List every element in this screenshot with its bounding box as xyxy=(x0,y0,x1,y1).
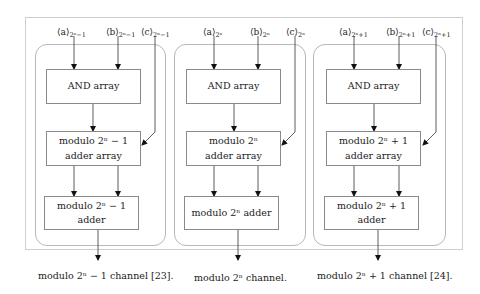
adder-array-block: modulo 2ⁿ + 1adder array xyxy=(326,131,421,166)
input-b-label: ⟨b⟩2ⁿ+1 xyxy=(386,27,415,39)
input-a-label: ⟨a⟩2ⁿ−1 xyxy=(57,27,86,39)
adder-array-subtitle: adder array xyxy=(205,149,262,163)
caption-minus-channel: modulo 2ⁿ − 1 channel [23]. xyxy=(38,270,173,281)
input-c-label: ⟨c⟩2ⁿ−1 xyxy=(141,27,170,39)
modulo-adder-label: modulo 2ⁿ adder xyxy=(192,206,272,220)
and-array-block: AND array xyxy=(326,69,421,104)
input-b-modulus: 2ⁿ xyxy=(263,31,270,39)
input-c-modulus: 2ⁿ xyxy=(298,31,305,39)
input-a-modulus: 2ⁿ xyxy=(215,31,222,39)
caption-plus-channel: modulo 2ⁿ + 1 channel [24]. xyxy=(317,270,452,281)
caption-plain-channel: modulo 2ⁿ channel. xyxy=(194,272,287,283)
modulo-adder-label: modulo 2ⁿ + 1 adder xyxy=(325,199,418,228)
input-b-modulus: 2ⁿ−1 xyxy=(119,31,136,39)
input-a-symbol: ⟨a⟩ xyxy=(57,27,69,37)
input-a-label: ⟨a⟩2ⁿ+1 xyxy=(339,27,368,39)
adder-array-block: modulo 2ⁿadder array xyxy=(186,131,281,166)
input-b-symbol: ⟨b⟩ xyxy=(250,27,263,37)
modulo-adder-block: modulo 2ⁿ − 1 adder xyxy=(44,196,139,230)
and-array-label: AND array xyxy=(208,79,260,93)
input-b-label: ⟨b⟩2ⁿ−1 xyxy=(106,27,135,39)
input-a-label: ⟨a⟩2ⁿ xyxy=(203,27,222,39)
input-c-symbol: ⟨c⟩ xyxy=(286,27,298,37)
adder-array-title: modulo 2ⁿ − 1 xyxy=(59,134,128,148)
input-a-symbol: ⟨a⟩ xyxy=(203,27,215,37)
input-c-label: ⟨c⟩2ⁿ+1 xyxy=(422,27,451,39)
input-c-label: ⟨c⟩2ⁿ xyxy=(286,27,305,39)
modulo-adder-block: modulo 2ⁿ adder xyxy=(184,196,279,230)
input-b-label: ⟨b⟩2ⁿ xyxy=(250,27,270,39)
input-c-symbol: ⟨c⟩ xyxy=(422,27,434,37)
adder-array-block: modulo 2ⁿ − 1adder array xyxy=(46,131,141,166)
and-array-label: AND array xyxy=(348,79,400,93)
adder-array-title: modulo 2ⁿ xyxy=(209,134,258,148)
input-b-symbol: ⟨b⟩ xyxy=(106,27,119,37)
input-c-symbol: ⟨c⟩ xyxy=(141,27,153,37)
input-b-symbol: ⟨b⟩ xyxy=(386,27,399,37)
and-array-label: AND array xyxy=(68,79,120,93)
adder-array-title: modulo 2ⁿ + 1 xyxy=(339,134,408,148)
modulo-adder-label: modulo 2ⁿ − 1 adder xyxy=(45,199,138,228)
modulo-adder-block: modulo 2ⁿ + 1 adder xyxy=(324,196,419,230)
input-c-modulus: 2ⁿ+1 xyxy=(434,31,451,39)
adder-array-subtitle: adder array xyxy=(65,149,122,163)
adder-array-subtitle: adder array xyxy=(345,149,402,163)
input-b-modulus: 2ⁿ+1 xyxy=(399,31,416,39)
and-array-block: AND array xyxy=(46,69,141,104)
input-a-symbol: ⟨a⟩ xyxy=(339,27,351,37)
input-a-modulus: 2ⁿ−1 xyxy=(69,31,86,39)
input-c-modulus: 2ⁿ−1 xyxy=(153,31,170,39)
and-array-block: AND array xyxy=(186,69,281,104)
input-a-modulus: 2ⁿ+1 xyxy=(351,31,368,39)
